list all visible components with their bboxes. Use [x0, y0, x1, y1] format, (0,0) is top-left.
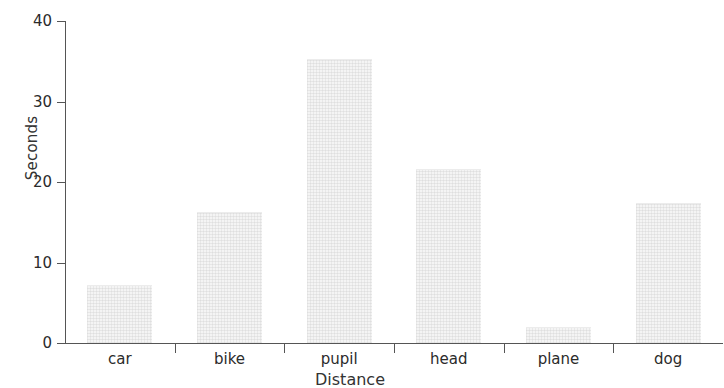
y-axis-title: Seconds	[23, 58, 41, 238]
y-tick-mark	[57, 102, 66, 103]
bar-chart: Seconds 010203040 carbikepupilheadplaned…	[0, 0, 724, 388]
bar-head	[416, 169, 481, 343]
x-category-label-dog: dog	[613, 350, 723, 368]
x-axis-title: Distance	[265, 370, 435, 388]
x-category-label-head: head	[394, 350, 504, 368]
y-tick-mark	[57, 182, 66, 183]
y-tick-mark	[57, 263, 66, 264]
y-tick-mark	[57, 21, 66, 22]
bar-car	[87, 285, 152, 343]
x-category-label-pupil: pupil	[284, 350, 394, 368]
bar-plane	[526, 327, 591, 343]
bar-dog	[636, 203, 701, 343]
x-category-label-plane: plane	[504, 350, 614, 368]
bar-bike	[197, 212, 262, 343]
x-category-label-car: car	[65, 350, 175, 368]
x-category-label-bike: bike	[175, 350, 285, 368]
bar-pupil	[307, 59, 372, 343]
